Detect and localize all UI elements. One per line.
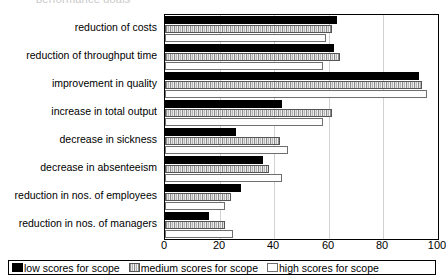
bar-high — [165, 174, 282, 182]
category-label: reduction in nos. of employees — [0, 190, 157, 201]
bar-medium — [165, 165, 269, 173]
bar-medium — [165, 81, 422, 89]
bar-group — [165, 128, 438, 156]
category-label: decrease in absenteeism — [0, 162, 157, 173]
bar-group — [165, 100, 438, 128]
plot-area — [164, 14, 439, 240]
bar-low — [165, 184, 241, 192]
legend-label: medium scores for scope — [141, 262, 258, 274]
bar-high — [165, 34, 326, 42]
bar-high — [165, 118, 323, 126]
bar-low — [165, 16, 337, 24]
bar-high — [165, 230, 233, 238]
bar-low — [165, 156, 263, 164]
bar-high — [165, 90, 427, 98]
bar-group — [165, 72, 438, 100]
bar-low — [165, 100, 282, 108]
value-axis-ticks: 020406080100 — [164, 239, 437, 255]
category-axis-labels: reduction of costsreduction of throughpu… — [0, 14, 160, 238]
white-square-icon — [267, 263, 278, 272]
bar-high — [165, 146, 288, 154]
bar-medium — [165, 109, 332, 117]
category-label: reduction of costs — [0, 22, 157, 33]
bar-low — [165, 212, 209, 220]
bar-group — [165, 44, 438, 72]
bar-low — [165, 44, 334, 52]
bar-medium — [165, 221, 225, 229]
bar-group — [165, 156, 438, 184]
x-tick-label: 80 — [376, 239, 388, 252]
category-label: increase in total output — [0, 106, 157, 117]
hatched-square-icon — [129, 263, 140, 272]
legend-item[interactable]: high scores for scope — [267, 262, 379, 274]
chart-legend: low scores for scopemedium scores for sc… — [8, 260, 436, 275]
bar-group — [165, 16, 438, 44]
category-label: improvement in quality — [0, 78, 157, 89]
black-square-icon — [12, 263, 23, 272]
x-tick-label: 40 — [267, 239, 279, 252]
legend-label: low scores for scope — [24, 262, 120, 274]
bar-medium — [165, 53, 340, 61]
x-tick-label: 0 — [161, 239, 167, 252]
bar-low — [165, 72, 419, 80]
category-label: reduction of throughput time — [0, 50, 157, 61]
category-label: decrease in sickness — [0, 134, 157, 145]
x-tick-label: 20 — [213, 239, 225, 252]
legend-item[interactable]: low scores for scope — [12, 262, 120, 274]
bar-medium — [165, 137, 280, 145]
clipped-chart-title: performance goals — [36, 0, 236, 3]
bar-medium — [165, 25, 332, 33]
legend-label: high scores for scope — [279, 262, 379, 274]
legend-item[interactable]: medium scores for scope — [129, 262, 258, 274]
bar-high — [165, 62, 323, 70]
x-tick-label: 100 — [428, 239, 446, 252]
plot-inner — [165, 15, 438, 239]
x-tick-label: 60 — [322, 239, 334, 252]
category-label: reduction in nos. of managers — [0, 218, 157, 229]
bar-low — [165, 128, 236, 136]
bar-group — [165, 184, 438, 212]
bar-medium — [165, 193, 231, 201]
bar-group — [165, 212, 438, 240]
bar-high — [165, 202, 225, 210]
